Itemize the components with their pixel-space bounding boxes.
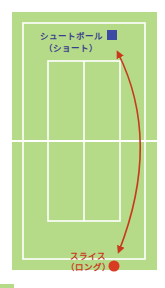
long-label-line2: （ロング）	[66, 262, 111, 272]
long-label-line1: スライス	[70, 251, 106, 261]
short-label-line2: （ショート）	[44, 43, 98, 53]
short-ball-marker	[107, 30, 117, 40]
corner-fragment	[0, 284, 14, 288]
short-label-line1: シュートボール	[40, 31, 103, 41]
tennis-court-diagram: シュートボール （ショート） スライス （ロング）	[0, 0, 165, 288]
